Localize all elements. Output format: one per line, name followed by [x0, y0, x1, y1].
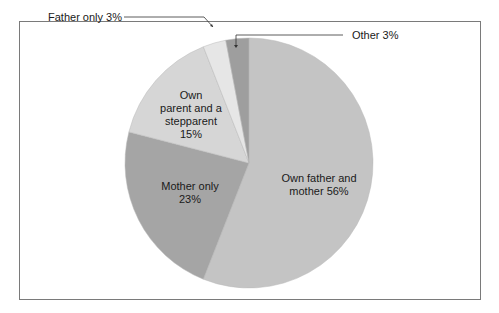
- label-stepparent-line2: parent and a: [148, 102, 234, 115]
- pie-chart: [0, 0, 499, 313]
- label-own-father-mother-line1: Own father and: [264, 172, 374, 185]
- label-own-father-mother-line2: mother 56%: [264, 185, 374, 198]
- label-stepparent-line4: 15%: [148, 128, 234, 141]
- label-own-father-mother: Own father and mother 56%: [264, 172, 374, 198]
- label-mother-only-line2: 23%: [145, 193, 235, 206]
- father-only-leader-line: [124, 17, 213, 27]
- label-mother-only: Mother only 23%: [145, 180, 235, 206]
- label-mother-only-line1: Mother only: [145, 180, 235, 193]
- label-stepparent-line3: stepparent: [148, 115, 234, 128]
- label-other: Other 3%: [352, 29, 398, 42]
- label-stepparent-line1: Own: [148, 89, 234, 102]
- label-stepparent: Own parent and a stepparent 15%: [148, 89, 234, 141]
- label-father-only: Father only 3%: [48, 11, 122, 24]
